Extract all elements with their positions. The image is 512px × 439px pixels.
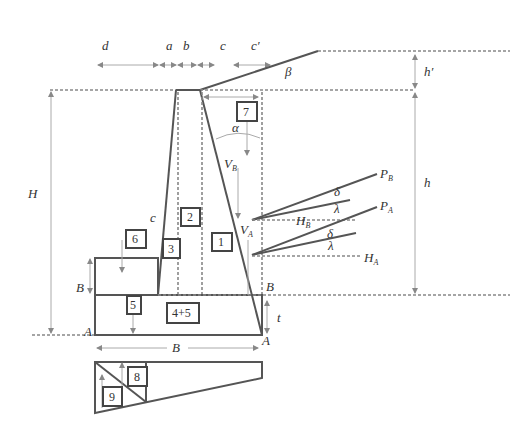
top-dimensions: d a b c c′ [98,38,270,65]
segment-8-label: 8 [134,370,140,384]
h-prime-label: h′ [424,64,434,79]
A-left-label: A [83,324,92,339]
pressure-B: PB δ λ HB [252,166,393,230]
A-right-label: A [261,333,270,348]
base-pressure-diagram: 8 9 [95,362,262,413]
stem-back-face [200,90,262,335]
segment-4-5-label: 4+5 [172,306,191,320]
H-A-label: HA [363,250,378,267]
lambda-2-label: λ [327,238,334,253]
dim-d-label: d [102,38,109,53]
segment-9-label: 9 [109,390,115,404]
delta-1-label: δ [334,184,341,199]
wall-stem [158,90,262,335]
segment-7-label: 7 [243,105,249,119]
toe-soil-block [95,258,158,295]
P-A-label: PA [379,198,393,215]
V-B-label: VB [224,156,237,173]
B-left-label: B [76,280,84,295]
c-face-label: c [150,210,156,225]
H-B-label: HB [295,213,310,230]
dim-a-label: a [166,38,173,53]
beta-label: β [284,64,292,79]
H-label: H [27,186,38,201]
V-A-label: VA [240,222,253,239]
alpha-label: α [232,120,240,135]
dim-b-label: b [183,38,190,53]
segment-3-label: 3 [168,242,174,256]
segment-5-label: 5 [130,298,136,312]
P-A-line [252,207,377,255]
segment-labels: 7 2 1 3 6 5 4+5 [126,102,257,323]
retaining-wall-diagram: d a b c c′ β h′ h H c α B A A [0,0,512,439]
B-width-label: B [172,340,180,355]
segment-6-label: 6 [132,232,138,246]
P-A-normal-line [252,233,356,255]
dim-c-prime-label: c′ [251,38,260,53]
lambda-1-label: λ [333,201,340,216]
stem-front-face [158,90,176,295]
P-B-label: PB [379,166,393,183]
segment-2-label: 2 [187,210,193,224]
B-right-label: B [266,279,274,294]
segment-1-label: 1 [218,235,224,249]
h-label: h [424,175,431,190]
P-B-line [252,174,377,220]
dim-c-label: c [220,38,226,53]
pressure-A: PA δ λ HA [252,198,393,267]
backfill-slope-line [200,51,318,90]
t-label: t [277,310,281,325]
